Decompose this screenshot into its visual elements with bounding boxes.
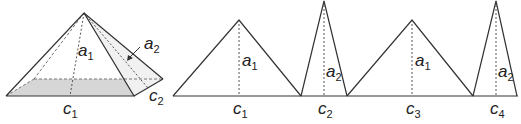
net-label-base-1: c1 (233, 99, 248, 120)
net-triangle-4: a2 c4 (473, 1, 517, 120)
net-triangle-2: a2 c2 (301, 1, 347, 120)
net-label-base-3: c3 (406, 99, 421, 120)
net-label-height-1: a1 (242, 51, 258, 72)
hidden-edge-apex-back (34, 13, 84, 79)
net-label-base-4: c4 (490, 99, 505, 120)
pyramid-surface-area-diagram: a1 a2 c1 c2 a1 c1 a2 c2 a1 c3 (0, 0, 521, 124)
label-a1: a1 (78, 41, 94, 62)
net-label-height-4: a2 (498, 62, 514, 83)
label-c2: c2 (149, 86, 164, 107)
label-a2: a2 (144, 34, 160, 55)
net-label-base-2: c2 (318, 99, 333, 120)
label-c1: c1 (63, 99, 78, 120)
net-triangle-1: a1 c1 (173, 20, 301, 120)
net-label-height-3: a1 (415, 51, 431, 72)
net-triangle-3: a1 c3 (347, 20, 473, 120)
pyramid-3d: a1 a2 c1 c2 (6, 13, 164, 120)
pyramid-net: a1 c1 a2 c2 a1 c3 a2 c4 (173, 1, 518, 120)
